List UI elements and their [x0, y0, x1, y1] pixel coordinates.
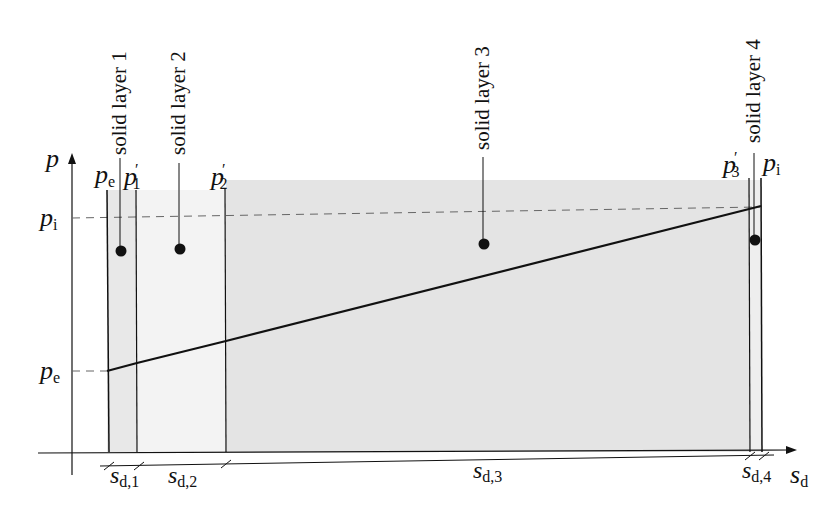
shade-layer-3	[226, 180, 750, 452]
x-axis-label: sd	[790, 462, 808, 490]
layer-name-2: solid layer 2	[166, 51, 191, 155]
shade-layer-4	[750, 180, 762, 452]
marker-dot-layer-3	[479, 239, 490, 250]
thickness-label-3: sd,3	[473, 458, 502, 485]
left-label-pi: pi	[40, 205, 57, 233]
marker-dot-layer-2	[175, 244, 186, 255]
thickness-label-1: sd,1	[110, 463, 139, 490]
thickness-label-2: sd,2	[168, 463, 197, 490]
x-axis-arrow	[786, 446, 797, 454]
layer-name-4: solid layer 4	[741, 39, 766, 143]
layer-name-1: solid layer 1	[107, 51, 132, 155]
boundary-pi	[761, 178, 762, 452]
shade-layer-1	[107, 190, 136, 452]
top-label-p2-prime: p′2	[211, 162, 228, 192]
y-axis-label: p	[46, 146, 59, 172]
thickness-label-4: sd,4	[742, 458, 771, 485]
left-label-pe: pe	[40, 358, 60, 386]
top-label-pe: pe	[95, 162, 115, 190]
layer-name-3: solid layer 3	[470, 46, 495, 150]
top-label-p3-prime: p′3	[723, 150, 740, 180]
marker-dot-layer-4	[750, 235, 761, 246]
dimension-line	[100, 455, 774, 466]
top-label-pi: pi	[763, 150, 780, 178]
top-label-p1-prime: p′1	[124, 162, 141, 192]
y-axis-arrow	[68, 153, 76, 164]
marker-dot-layer-1	[116, 246, 127, 257]
shade-layer-2	[136, 190, 226, 452]
